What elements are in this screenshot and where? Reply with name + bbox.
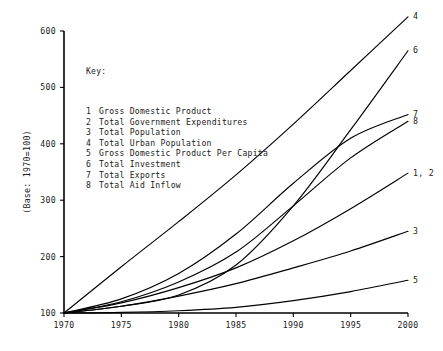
legend-item-4: 4Total Urban Population: [86, 138, 268, 149]
legend-item-number: 1: [86, 106, 99, 117]
x-tick-label-1970: 1970: [54, 320, 75, 330]
x-tick-label-1985: 1985: [226, 320, 247, 330]
legend-item-number: 4: [86, 138, 99, 149]
legend-item-label: Total Aid Inflow: [99, 180, 181, 190]
y-tick-label-100: 100: [40, 308, 56, 318]
series-end-labels: 46781, 235: [413, 11, 434, 284]
y-tick-label-500: 500: [40, 82, 56, 92]
y-axis-title: (Base: 1970=100): [22, 130, 32, 214]
legend-item-number: 3: [86, 127, 99, 138]
series-end-label-1,2: 1, 2: [413, 168, 434, 178]
series-line-5: [64, 280, 408, 313]
legend-title: Key:: [86, 66, 268, 77]
legend-item-label: Gross Domestic Product: [99, 106, 212, 116]
x-tick-label-2000: 2000: [398, 320, 419, 330]
y-axis-group: 100200300400500600: [40, 26, 64, 318]
chart-page: 100200300400500600 197019751980198519901…: [0, 0, 443, 351]
legend-item-label: Total Government Expenditures: [99, 117, 248, 127]
x-axis-tick-labels: 1970197519801985199019952000: [54, 320, 419, 330]
x-tick-label-1975: 1975: [111, 320, 132, 330]
y-axis-tick-labels: 100200300400500600: [40, 26, 56, 318]
y-tick-label-200: 200: [40, 252, 56, 262]
x-tick-label-1995: 1995: [340, 320, 361, 330]
legend-item-1: 1Gross Domestic Product: [86, 106, 268, 117]
legend-key: Key: 1Gross Domestic Product2Total Gover…: [86, 45, 268, 212]
legend-item-label: Total Population: [99, 127, 181, 137]
legend-item-number: 8: [86, 180, 99, 191]
legend-item-7: 7Total Exports: [86, 170, 268, 181]
x-tick-label-1980: 1980: [168, 320, 189, 330]
legend-item-number: 6: [86, 159, 99, 170]
legend-item-number: 5: [86, 148, 99, 159]
legend-item-label: Total Investment: [99, 159, 181, 169]
series-end-label-6: 6: [413, 45, 418, 55]
series-end-label-5: 5: [413, 275, 418, 285]
legend-item-5: 5Gross Domestic Product Per Capita: [86, 148, 268, 159]
legend-item-3: 3Total Population: [86, 127, 268, 138]
series-end-label-4: 4: [413, 11, 418, 21]
y-tick-label-400: 400: [40, 139, 56, 149]
legend-item-6: 6Total Investment: [86, 159, 268, 170]
series-end-label-3: 3: [413, 226, 418, 236]
legend-item-number: 2: [86, 117, 99, 128]
legend-item-8: 8Total Aid Inflow: [86, 180, 268, 191]
y-axis-title-text: (Base: 1970=100): [22, 130, 32, 214]
y-tick-label-300: 300: [40, 195, 56, 205]
series-end-label-8: 8: [413, 116, 418, 126]
x-tick-label-1990: 1990: [283, 320, 304, 330]
legend-item-2: 2Total Government Expenditures: [86, 117, 268, 128]
legend-item-label: Total Exports: [99, 170, 166, 180]
legend-item-label: Total Urban Population: [99, 138, 212, 148]
legend-item-label: Gross Domestic Product Per Capita: [99, 148, 268, 158]
legend-entries: 1Gross Domestic Product2Total Government…: [86, 106, 268, 191]
x-axis-group: 1970197519801985199019952000: [54, 313, 419, 330]
legend-item-number: 7: [86, 170, 99, 181]
y-tick-label-600: 600: [40, 26, 56, 36]
